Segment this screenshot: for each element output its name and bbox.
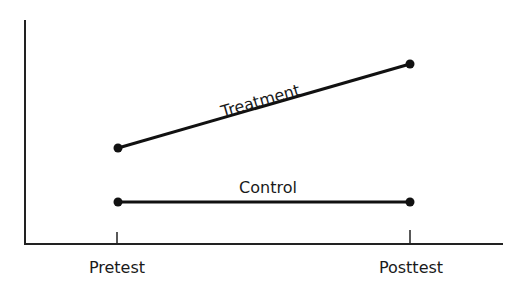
treatment-posttest-point <box>406 60 415 69</box>
treatment-label: Treatment <box>218 80 302 121</box>
control-pretest-point <box>114 198 123 207</box>
control-label: Control <box>239 178 297 197</box>
treatment-pretest-point <box>114 144 123 153</box>
x-tick-label-posttest: Posttest <box>379 258 443 277</box>
x-tick-label-pretest: Pretest <box>89 258 145 277</box>
series-control <box>114 198 415 207</box>
control-posttest-point <box>406 198 415 207</box>
chart: Treatment Control Pretest Posttest <box>0 0 519 294</box>
